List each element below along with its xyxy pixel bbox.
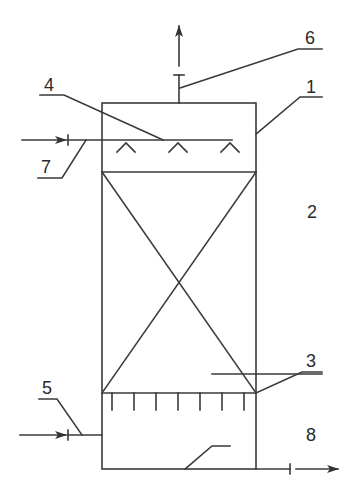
leader-lines (38, 49, 322, 469)
tower-shell (102, 103, 256, 469)
label-8: 8 (306, 425, 316, 445)
gas-inlet (20, 430, 102, 440)
gas-outlet (174, 26, 184, 103)
spray-distributor (68, 140, 239, 152)
packing-layer (102, 172, 256, 393)
liquid-inlet (22, 135, 68, 145)
label-6: 6 (305, 28, 315, 48)
label-3: 3 (306, 351, 316, 371)
label-2: 2 (307, 202, 317, 222)
label-5: 5 (42, 378, 52, 398)
label-4: 4 (44, 75, 54, 95)
liquid-outlet (256, 464, 338, 474)
label-7: 7 (41, 157, 51, 177)
packing-support-grid (112, 393, 244, 410)
label-1: 1 (306, 77, 316, 97)
packed-tower-diagram: 1 2 3 4 5 6 7 8 (0, 0, 358, 489)
